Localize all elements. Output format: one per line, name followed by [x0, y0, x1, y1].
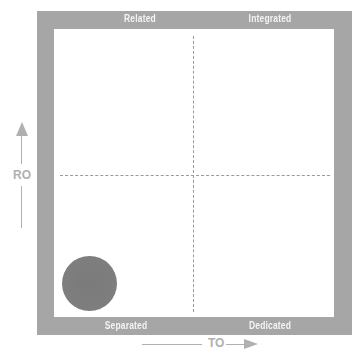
x-axis-line-right: [226, 344, 246, 345]
horizontal-divider: [60, 175, 330, 176]
y-axis-line-upper: [21, 134, 22, 164]
quadrant-label-related: Related: [106, 13, 174, 25]
y-axis-label: RO: [13, 168, 31, 182]
y-axis-line-lower: [21, 186, 22, 228]
position-marker: [62, 256, 117, 311]
vertical-divider: [193, 36, 194, 312]
quadrant-label-separated: Separated: [92, 320, 160, 332]
arrow-up-icon: [16, 122, 28, 136]
quadrant-label-dedicated: Dedicated: [236, 320, 304, 332]
x-axis-label: TO: [208, 336, 224, 350]
quadrant-label-integrated: Integrated: [236, 13, 304, 25]
arrow-right-icon: [244, 339, 258, 349]
x-axis-line-left: [142, 344, 202, 345]
